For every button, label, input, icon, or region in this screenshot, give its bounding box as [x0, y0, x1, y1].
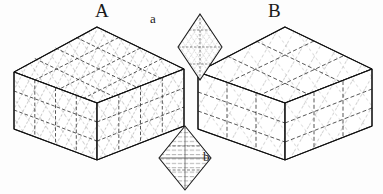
- label-solid-a: A: [95, 1, 109, 20]
- label-section-b: b: [203, 150, 210, 163]
- label-solid-b: B: [268, 1, 281, 20]
- figure-canvas: A B a b: [0, 0, 383, 194]
- label-section-a: a: [150, 12, 156, 25]
- crystal-figure-svg: [0, 0, 383, 194]
